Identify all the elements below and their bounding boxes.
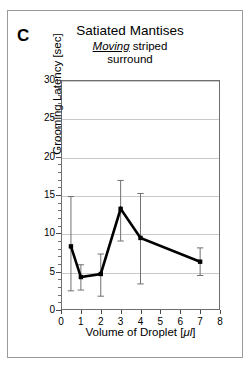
y-tick-label-0: 0 xyxy=(27,305,55,315)
y-tick-minor-8 xyxy=(58,249,61,250)
y-tick-minor-23 xyxy=(58,134,61,135)
x-tick-label-0: 0 xyxy=(53,317,69,327)
data-point xyxy=(69,244,73,248)
x-tick-mark-2 xyxy=(101,310,102,314)
y-tick-minor-1 xyxy=(58,302,61,303)
x-tick-label-3: 3 xyxy=(113,317,129,327)
x-tick-mark-3 xyxy=(121,310,122,314)
title-block: Satiated Mantises Moving striped surroun… xyxy=(40,23,220,66)
y-tick-minor-11 xyxy=(58,226,61,227)
x-axis-title-suffix: ] xyxy=(192,326,195,338)
y-tick-mark-10 xyxy=(56,233,61,234)
x-tick-mark-1 xyxy=(81,310,82,314)
y-tick-minor-26 xyxy=(58,111,61,112)
y-tick-minor-22 xyxy=(58,141,61,142)
x-tick-label-1: 1 xyxy=(73,317,89,327)
y-tick-minor-6 xyxy=(58,264,61,265)
chart-subtitle-emphasis: Moving xyxy=(93,40,130,52)
data-point xyxy=(198,260,202,264)
chart-subtitle-rest: striped xyxy=(130,40,168,52)
x-tick-label-2: 2 xyxy=(93,317,109,327)
y-tick-minor-17 xyxy=(58,180,61,181)
y-tick-minor-28 xyxy=(58,95,61,96)
y-tick-label-15: 15 xyxy=(27,190,55,200)
y-tick-label-20: 20 xyxy=(27,152,55,162)
y-tick-mark-20 xyxy=(56,157,61,158)
x-axis-title-unit: μl xyxy=(183,326,192,338)
y-tick-minor-7 xyxy=(58,256,61,257)
data-point xyxy=(118,207,122,211)
series-line-0 xyxy=(71,209,200,277)
chart-subtitle-line2: surround xyxy=(40,53,220,66)
y-tick-label-5: 5 xyxy=(27,267,55,277)
x-axis-title: Volume of Droplet [μl] xyxy=(61,326,220,338)
y-tick-label-10: 10 xyxy=(27,228,55,238)
y-tick-minor-2 xyxy=(58,295,61,296)
x-axis-title-prefix: Volume of Droplet [ xyxy=(86,326,184,338)
panel-label-c: C xyxy=(17,27,29,44)
data-point xyxy=(79,275,83,279)
chart-title: Satiated Mantises xyxy=(40,23,220,39)
y-tick-minor-18 xyxy=(58,172,61,173)
y-tick-minor-19 xyxy=(58,164,61,165)
chart-subtitle: Moving striped surround xyxy=(40,40,220,66)
data-point xyxy=(99,272,103,276)
y-tick-minor-9 xyxy=(58,241,61,242)
x-tick-mark-5 xyxy=(160,310,161,314)
data-markers xyxy=(69,207,203,280)
error-bars xyxy=(68,180,204,296)
y-tick-mark-25 xyxy=(56,118,61,119)
data-point xyxy=(138,236,142,240)
x-tick-label-8: 8 xyxy=(212,317,228,327)
x-tick-mark-8 xyxy=(220,310,221,314)
y-tick-minor-24 xyxy=(58,126,61,127)
x-tick-label-6: 6 xyxy=(172,317,188,327)
y-tick-minor-4 xyxy=(58,279,61,280)
y-tick-minor-29 xyxy=(58,88,61,89)
data-layer xyxy=(61,80,220,310)
y-tick-minor-27 xyxy=(58,103,61,104)
y-tick-label-25: 25 xyxy=(27,113,55,123)
y-tick-label-30: 30 xyxy=(27,75,55,85)
x-tick-label-7: 7 xyxy=(192,317,208,327)
x-tick-label-4: 4 xyxy=(133,317,149,327)
y-tick-minor-3 xyxy=(58,287,61,288)
y-tick-mark-30 xyxy=(56,80,61,81)
y-tick-mark-5 xyxy=(56,272,61,273)
y-tick-mark-15 xyxy=(56,195,61,196)
x-tick-mark-4 xyxy=(141,310,142,314)
x-tick-mark-6 xyxy=(180,310,181,314)
y-tick-minor-12 xyxy=(58,218,61,219)
y-tick-minor-13 xyxy=(58,210,61,211)
x-tick-mark-7 xyxy=(200,310,201,314)
figure-panel: C Satiated Mantises Moving striped surro… xyxy=(0,0,250,369)
y-tick-minor-16 xyxy=(58,187,61,188)
x-tick-label-5: 5 xyxy=(152,317,168,327)
y-tick-minor-21 xyxy=(58,149,61,150)
y-tick-minor-14 xyxy=(58,203,61,204)
x-tick-mark-0 xyxy=(61,310,62,314)
